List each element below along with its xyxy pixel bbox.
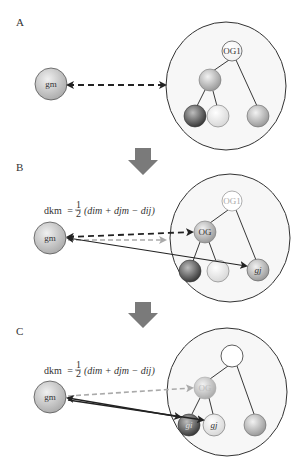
formula-c: dkm = <box>44 365 73 376</box>
formula-frac-den: 2 <box>76 368 81 379</box>
formula-rhs: (dim + djm − dij) <box>84 205 155 217</box>
formula-rhs: (dim + djm − dij) <box>84 365 155 377</box>
panel-label-b: B <box>16 161 23 173</box>
leaf-node-mid <box>247 105 269 127</box>
leaf-node-gi-label: gi <box>185 420 193 430</box>
leaf-node-gj-label: gj <box>254 265 262 275</box>
leaf-node-dark <box>179 260 201 282</box>
panel-a: A OG1 gm <box>16 16 286 150</box>
root-node-label: OG1 <box>223 196 241 206</box>
internal-node <box>199 69 221 91</box>
cluster-ellipse <box>166 22 286 150</box>
down-arrow-icon <box>128 302 158 328</box>
formula-lhs: dkm <box>44 365 62 376</box>
root-node <box>221 345 243 367</box>
down-arrow-icon <box>128 148 158 175</box>
root-node-label: OG1 <box>223 46 241 56</box>
internal-node-label: OG <box>199 383 212 393</box>
leaf-node-light <box>207 105 229 127</box>
panel-label-a: A <box>16 16 24 28</box>
leaf-node-dark <box>184 105 206 127</box>
gm-node-label: gm <box>44 233 56 243</box>
formula-b: dkm = <box>44 205 73 216</box>
leaf-node-gj-label: gj <box>210 420 218 430</box>
panel-c: C dkm = 1 2 (dim + djm − dij) OG gi gj g… <box>16 325 287 456</box>
panel-b: B dkm = 1 2 (dim + djm − dij) OG1 OG gj … <box>16 161 290 302</box>
gm-node-label: gm <box>45 79 57 89</box>
diagram-canvas: A OG1 gm B dkm = 1 2 (dim + djm − dij) <box>0 0 298 472</box>
internal-node-label: OG <box>199 227 212 237</box>
panel-label-c: C <box>16 325 23 337</box>
formula-frac-den: 2 <box>76 208 81 219</box>
formula-lhs: dkm <box>44 205 62 216</box>
gm-node-label: gm <box>44 392 56 402</box>
leaf-node-mid <box>244 414 266 436</box>
